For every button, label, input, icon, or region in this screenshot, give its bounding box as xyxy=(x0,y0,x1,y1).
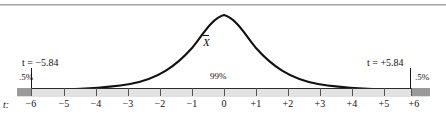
tick-label: +5 xyxy=(369,98,399,109)
tick-label: +1 xyxy=(241,98,271,109)
right-tail-shaded-region xyxy=(411,88,430,96)
left-tail-percent-label: .5% xyxy=(19,72,33,82)
distribution-figure: t: −6 −5 −4 −3 −2 −1 0 +1 +2 +3 +4 +5 +6… xyxy=(0,0,446,117)
axis-tick xyxy=(352,88,353,96)
axis-tick xyxy=(192,88,193,96)
center-region-percent-label: 99% xyxy=(210,71,227,81)
tick-label: +2 xyxy=(273,98,303,109)
axis-name-label: t: xyxy=(3,99,9,110)
tick-label: −5 xyxy=(49,98,79,109)
tick-label: +6 xyxy=(399,98,429,109)
xbar-glyph: X xyxy=(203,36,210,48)
axis-tick xyxy=(320,88,321,96)
tick-label: +4 xyxy=(337,98,367,109)
left-tail-shaded-region xyxy=(17,88,31,96)
tick-label: 0 xyxy=(209,98,239,109)
axis-tick xyxy=(384,88,385,96)
tick-label: +3 xyxy=(305,98,335,109)
critical-value-line-right xyxy=(410,68,411,89)
axis-tick xyxy=(31,88,32,96)
tick-label: −3 xyxy=(113,98,143,109)
axis-tick xyxy=(128,88,129,96)
axis-tick xyxy=(160,88,161,96)
critical-value-label-left: t = −5.84 xyxy=(22,57,59,68)
axis-tick xyxy=(411,88,412,96)
right-tail-percent-label: .5% xyxy=(415,72,429,82)
axis-tick xyxy=(224,88,225,96)
critical-value-label-right: t = +5.84 xyxy=(367,57,404,68)
tick-label: −6 xyxy=(16,98,46,109)
mean-xbar-label: X xyxy=(203,36,210,48)
axis-tick xyxy=(256,88,257,96)
tick-label: −1 xyxy=(177,98,207,109)
axis-tick xyxy=(64,88,65,96)
tick-label: −2 xyxy=(145,98,175,109)
tick-label: −4 xyxy=(81,98,111,109)
axis-tick xyxy=(96,88,97,96)
axis-tick xyxy=(288,88,289,96)
